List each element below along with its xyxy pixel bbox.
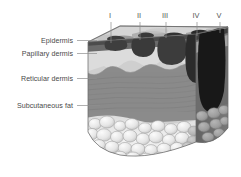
skin-front-face — [84, 30, 209, 165]
label-epidermis-text: Epidermis — [41, 37, 73, 45]
label-subcutaneous-fat: Subcutaneous fat — [17, 102, 100, 110]
clark-numeral-4: IV — [193, 11, 200, 20]
skin-cross-section-figure: I II III IV V Epidermis Papillary dermis — [0, 0, 241, 177]
label-reticular-dermis-text: Reticular dermis — [21, 75, 73, 83]
label-papillary-dermis-text: Papillary dermis — [22, 50, 74, 58]
label-papillary-dermis: Papillary dermis — [22, 50, 97, 58]
label-reticular-dermis: Reticular dermis — [21, 75, 97, 83]
layer-labels: Epidermis Papillary dermis Reticular der… — [17, 37, 100, 110]
clark-numeral-1: I — [109, 11, 111, 20]
clark-numeral-2: II — [137, 11, 141, 20]
label-subcutaneous-fat-text: Subcutaneous fat — [17, 102, 73, 110]
clark-numeral-3: III — [162, 11, 168, 20]
diagram-canvas: I II III IV V Epidermis Papillary dermis — [0, 0, 241, 177]
clark-numeral-5: V — [217, 11, 222, 20]
